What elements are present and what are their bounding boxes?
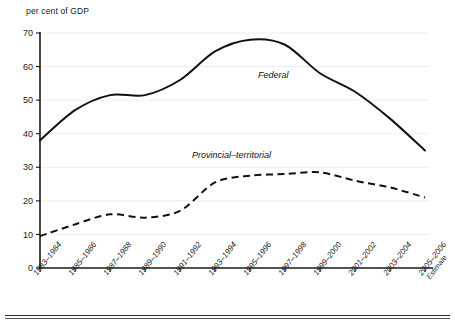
x-tick-label-group-11: 2005–2006Estimate bbox=[416, 240, 455, 284]
y-tick-label-40: 40 bbox=[23, 129, 33, 139]
x-tick-label-8: 1999–2000 bbox=[311, 240, 343, 278]
y-tick-label-30: 30 bbox=[23, 162, 33, 172]
x-tick-label-group-8: 1999–2000 bbox=[311, 240, 343, 278]
x-tick-label-3: 1989–1990 bbox=[136, 240, 168, 278]
x-tick-label-group-4: 1991–1992 bbox=[171, 240, 203, 278]
x-tick-label-group-9: 2001–2002 bbox=[346, 240, 379, 278]
y-tick-label-70: 70 bbox=[23, 28, 33, 38]
y-tick-label-10: 10 bbox=[23, 230, 33, 240]
x-tick-label-group-10: 2003–2004 bbox=[381, 240, 414, 278]
y-tick-label-60: 60 bbox=[23, 62, 33, 72]
x-tick-label-group-1: 1985–1986 bbox=[66, 240, 98, 278]
x-tick-label-2: 1987–1988 bbox=[101, 240, 133, 278]
y-tick-label-50: 50 bbox=[23, 95, 33, 105]
x-tick-label-1: 1985–1986 bbox=[66, 240, 98, 278]
line-chart-plot: 0102030405060701983–19841985–19861987–19… bbox=[0, 0, 455, 329]
series-annotation-federal: Federal bbox=[258, 70, 290, 80]
footer-rule-bottom bbox=[5, 318, 450, 319]
footer-rule-top bbox=[5, 315, 450, 316]
x-tick-label-4: 1991–1992 bbox=[171, 240, 203, 278]
x-tick-label-group-3: 1989–1990 bbox=[136, 240, 168, 278]
series-line-provincial-territorial bbox=[40, 172, 425, 236]
x-tick-label-7: 1997–1998 bbox=[276, 240, 308, 278]
x-tick-label-group-6: 1995–1996 bbox=[241, 240, 273, 278]
series-annotation-provincial-territorial: Provincial–territorial bbox=[192, 150, 272, 160]
x-tick-label-9: 2001–2002 bbox=[346, 240, 379, 278]
x-tick-label-6: 1995–1996 bbox=[241, 240, 273, 278]
x-tick-label-group-7: 1997–1998 bbox=[276, 240, 308, 278]
chart-figure: per cent of GDP 0102030405060701983–1984… bbox=[0, 0, 455, 329]
x-tick-label-10: 2003–2004 bbox=[381, 240, 414, 278]
y-tick-label-20: 20 bbox=[23, 196, 33, 206]
x-tick-label-0: 1983–1984 bbox=[31, 240, 63, 278]
x-tick-label-group-5: 1993–1994 bbox=[206, 240, 238, 278]
x-tick-label-group-2: 1987–1988 bbox=[101, 240, 133, 278]
x-tick-label-5: 1993–1994 bbox=[206, 240, 238, 278]
x-tick-label-group-0: 1983–1984 bbox=[31, 240, 63, 278]
